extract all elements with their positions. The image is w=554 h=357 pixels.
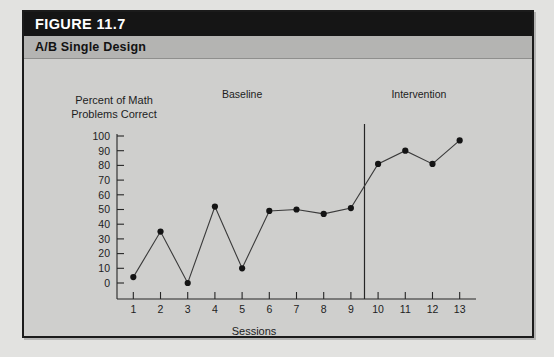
x-tick-label: 11 xyxy=(400,303,411,315)
data-point-marker xyxy=(293,206,299,212)
data-point-marker xyxy=(185,280,191,286)
phase-label-intervention: Intervention xyxy=(391,88,446,100)
data-point-marker xyxy=(130,274,136,280)
figure-subtitle-label: A/B Single Design xyxy=(35,40,146,54)
y-tick-label: 100 xyxy=(92,130,110,142)
y-tick-label: 70 xyxy=(98,174,110,186)
y-tick-label: 20 xyxy=(98,247,110,259)
figure-frame: FIGURE 11.7 A/B Single Design 0102030405… xyxy=(22,10,534,338)
x-tick-label: 5 xyxy=(239,303,245,315)
data-point-marker xyxy=(348,205,354,211)
x-axis-title: Sessions xyxy=(232,325,277,336)
chart-plot-area: 0102030405060708090100 12345678910111213… xyxy=(24,60,532,336)
figure-number-label: FIGURE 11.7 xyxy=(35,16,126,32)
y-tick-label: 40 xyxy=(98,218,110,230)
data-point-marker xyxy=(321,211,327,217)
x-tick-label: 6 xyxy=(266,303,272,315)
x-tick-label: 12 xyxy=(427,303,439,315)
y-tick-label: 90 xyxy=(98,145,110,157)
x-tick-label: 13 xyxy=(454,303,466,315)
y-axis-tick-labels: 0102030405060708090100 xyxy=(92,130,110,289)
x-tick-label: 8 xyxy=(321,303,327,315)
x-tick-label: 1 xyxy=(130,303,136,315)
data-series-markers xyxy=(130,137,463,286)
x-axis-tick-marks xyxy=(133,292,459,299)
data-point-marker xyxy=(212,203,218,209)
y-tick-label: 80 xyxy=(98,159,110,171)
y-axis-tick-marks xyxy=(117,136,124,283)
data-point-marker xyxy=(266,208,272,214)
x-tick-label: 7 xyxy=(294,303,300,315)
y-tick-label: 30 xyxy=(98,233,110,245)
y-axis-title-line2: Problems Correct xyxy=(71,108,157,120)
data-point-marker xyxy=(402,148,408,154)
data-point-marker xyxy=(429,161,435,167)
line-chart-svg: 0102030405060708090100 12345678910111213… xyxy=(24,60,532,336)
x-tick-label: 2 xyxy=(158,303,164,315)
y-tick-label: 50 xyxy=(98,203,110,215)
phase-label-baseline: Baseline xyxy=(222,88,262,100)
x-tick-label: 9 xyxy=(348,303,354,315)
y-axis-title-line1: Percent of Math xyxy=(75,94,153,106)
data-point-marker xyxy=(457,137,463,143)
data-point-marker xyxy=(375,161,381,167)
data-point-marker xyxy=(157,228,163,234)
y-tick-label: 0 xyxy=(104,277,110,289)
x-tick-label: 3 xyxy=(185,303,191,315)
x-tick-label: 10 xyxy=(372,303,384,315)
y-tick-label: 10 xyxy=(98,262,110,274)
x-tick-label: 4 xyxy=(212,303,218,315)
y-tick-label: 60 xyxy=(98,189,110,201)
x-axis-tick-labels: 12345678910111213 xyxy=(130,303,465,315)
data-point-marker xyxy=(239,265,245,271)
